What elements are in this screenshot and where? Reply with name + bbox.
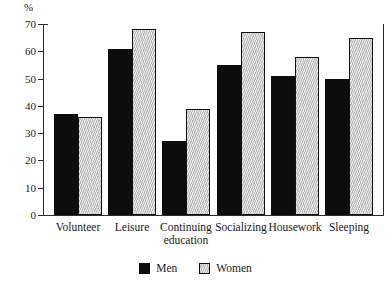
bar-group (271, 24, 319, 215)
bar-men (217, 65, 241, 215)
bar-women (295, 57, 319, 215)
y-axis-unit-label: % (24, 1, 33, 13)
bar-men (162, 141, 186, 215)
y-axis-tick-label: 0 (2, 210, 36, 221)
chart-legend: Men Women (0, 262, 391, 274)
y-axis-tick (38, 215, 44, 216)
legend-item-men: Men (139, 262, 177, 274)
legend-item-women: Women (199, 262, 251, 274)
x-axis-category-label: Sleeping (309, 221, 389, 234)
bar-group (217, 24, 265, 215)
x-axis-line (43, 215, 384, 216)
bar-women (349, 38, 373, 215)
y-axis-tick-label: 60 (2, 46, 36, 57)
bar-men (325, 79, 349, 215)
bar-group (108, 24, 156, 215)
bar-women (186, 109, 210, 215)
bar-group (54, 24, 102, 215)
plot-area (44, 24, 383, 215)
y-axis-tick-label: 20 (2, 155, 36, 166)
bar-group (162, 24, 210, 215)
bar-men (54, 114, 78, 215)
legend-label-men: Men (156, 262, 177, 274)
legend-label-women: Women (216, 262, 251, 274)
bar-chart: % 010203040506070 VolunteerLeisureContin… (0, 0, 391, 289)
plot-frame-right-line (383, 24, 384, 216)
bar-women (132, 29, 156, 215)
bar-women (78, 117, 102, 215)
y-axis-tick-label: 10 (2, 183, 36, 194)
bar-men (271, 76, 295, 215)
bar-men (108, 49, 132, 215)
bar-group (325, 24, 373, 215)
y-axis-tick-label: 40 (2, 101, 36, 112)
y-axis-tick-label: 50 (2, 74, 36, 85)
bar-women (241, 32, 265, 215)
gray-square-swatch-icon (199, 263, 210, 274)
black-square-swatch-icon (139, 263, 150, 274)
y-axis-tick-label: 30 (2, 128, 36, 139)
y-axis-tick-label: 70 (2, 19, 36, 30)
